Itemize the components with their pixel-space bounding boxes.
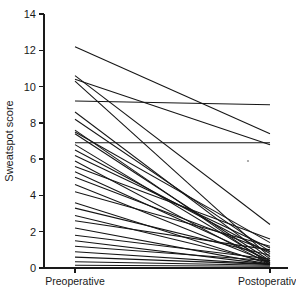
slope-line xyxy=(75,132,270,243)
slope-line-group xyxy=(75,47,270,267)
slope-line xyxy=(75,221,270,250)
label-group: Sweatspot score xyxy=(3,100,15,181)
slope-line xyxy=(75,177,270,251)
slope-line xyxy=(75,134,270,261)
slope-line xyxy=(75,79,270,144)
y-axis-tick-label: 4 xyxy=(30,189,36,201)
slope-chart: 02468101214 PreoperativePostoperative Sw… xyxy=(0,0,296,295)
y-axis-tick-label: 10 xyxy=(24,81,36,93)
slope-line xyxy=(75,265,270,266)
x-axis-category-label: Preoperative xyxy=(45,275,105,287)
y-axis-tick-label: 2 xyxy=(30,226,36,238)
stray-speck xyxy=(247,160,249,162)
y-axis-tick-label: 8 xyxy=(30,117,36,129)
x-tick-group: PreoperativePostoperative xyxy=(45,268,296,287)
y-axis-tick-label: 0 xyxy=(30,262,36,274)
slope-line xyxy=(75,145,270,263)
slope-line xyxy=(75,101,270,105)
y-axis-tick-label: 14 xyxy=(24,8,36,20)
x-axis-category-label: Postoperative xyxy=(238,275,296,287)
slope-line xyxy=(75,192,270,246)
chart-figure: 02468101214 PreoperativePostoperative Sw… xyxy=(0,0,296,295)
y-axis-tick-label: 6 xyxy=(30,153,36,165)
slope-line xyxy=(75,47,270,134)
y-axis-title: Sweatspot score xyxy=(3,100,15,181)
y-tick-group: 02468101214 xyxy=(24,8,44,274)
slope-line xyxy=(75,185,270,263)
y-axis-tick-label: 12 xyxy=(24,44,36,56)
